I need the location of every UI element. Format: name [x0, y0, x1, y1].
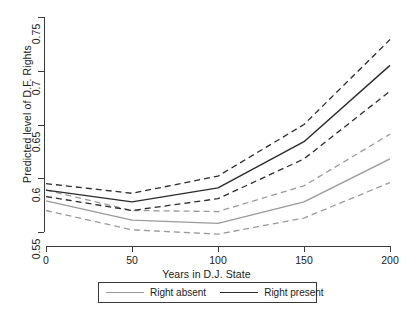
series-line	[46, 40, 390, 194]
series-line	[46, 65, 390, 202]
series-line	[46, 159, 390, 224]
legend-swatch-right-absent	[106, 292, 144, 293]
legend-label-right-absent: Right absent	[150, 287, 206, 298]
series-line	[46, 183, 390, 235]
chart-legend: Right absent Right present	[98, 282, 317, 303]
legend-item-right-present: Right present	[220, 287, 323, 298]
series-line	[46, 134, 390, 211]
plot-lines	[0, 0, 413, 309]
legend-item-right-absent: Right absent	[106, 287, 206, 298]
chart-container: Predicted level of D.F. Rights 0.550.60.…	[0, 0, 413, 309]
series-line	[46, 91, 390, 210]
legend-swatch-right-present	[220, 292, 258, 293]
legend-label-right-present: Right present	[264, 287, 323, 298]
x-axis-title: Years in D.J. State	[0, 268, 413, 280]
